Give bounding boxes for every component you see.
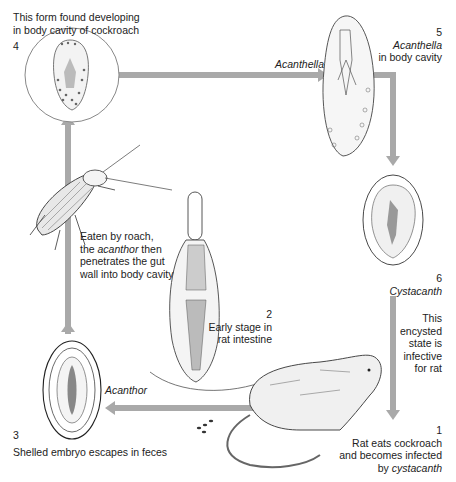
stage-3-number: 3 [13,429,19,442]
stage-6-description: This encysted state is infective for rat [400,312,442,375]
stage-5-caption: 5 Acanthella in body cavity [378,26,442,64]
stage-2-adult-worm-icon [150,192,268,390]
feces-pellets [197,420,213,434]
stage-2-caption: 2 Early stage in rat intestine [208,308,272,346]
arrow-label-acanthor: Acanthor [105,384,147,397]
life-cycle-diagram: This form found developing in body cavit… [0,0,456,482]
stage-4-caption: This form found developing in body cavit… [13,11,140,36]
stage-5-acanthella-icon [323,16,374,156]
arrow-label-acanthella: Acanthella [275,58,324,71]
illustrations [0,0,456,482]
stage-3-caption: Shelled embryo escapes in feces [13,446,167,459]
stage-4-juvenile-icon [25,28,119,122]
stage-6-cystacanth-icon [363,175,423,265]
stage-4-number: 4 [13,40,19,53]
stage-1-caption: 1 Rat eats cockroach and becomes infecte… [339,424,442,474]
roach-note: Eaten by roach, the acanthor then penetr… [80,230,173,280]
stage-3-egg-icon [43,341,101,439]
stage-6-caption: 6 Cystacanth [389,272,442,297]
